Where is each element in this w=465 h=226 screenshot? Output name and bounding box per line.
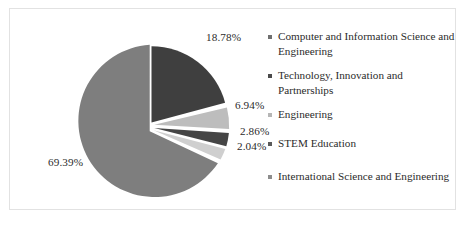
pie-chart-figure: 18.78% 6.94% 2.86% 2.04% 69.39% Computer… [0,0,465,226]
legend-item-international-science-and-engineering[interactable]: International Science and Engineering [268,169,460,184]
legend-item-label: Computer and Information Science and Eng… [278,29,456,58]
legend-item-label: STEM Education [278,136,356,151]
pie-slice-group [78,45,229,197]
pie-chart-area [30,27,260,207]
legend-item-label: Engineering [278,107,333,122]
square-marker-icon [268,142,272,146]
square-marker-icon [268,35,272,39]
figure-border: 18.78% 6.94% 2.86% 2.04% 69.39% Computer… [9,8,456,210]
legend-item-label: Technology, Innovation and Partnerships [278,68,456,97]
pie-value-label-international-science-and-engineering: 69.39% [48,156,83,168]
legend-item-computer-and-information-science-and-engineering[interactable]: Computer and Information Science and Eng… [268,29,460,58]
pie-value-label-computer-and-information-science-and-engineering: 18.78% [206,31,241,43]
pie-slices-svg [30,27,260,207]
square-marker-icon [268,175,272,179]
pie-value-label-engineering: 2.86% [240,125,269,137]
legend-item-engineering[interactable]: Engineering [268,107,460,122]
legend-item-technology-innovation-and-partnerships[interactable]: Technology, Innovation and Partnerships [268,68,460,97]
legend-item-stem-education[interactable]: STEM Education [268,136,460,151]
pie-value-label-technology-innovation-and-partnerships: 6.94% [235,99,264,111]
legend-item-label: International Science and Engineering [278,169,449,184]
square-marker-icon [268,113,272,117]
square-marker-icon [268,74,272,78]
pie-value-label-stem-education: 2.04% [237,140,266,152]
